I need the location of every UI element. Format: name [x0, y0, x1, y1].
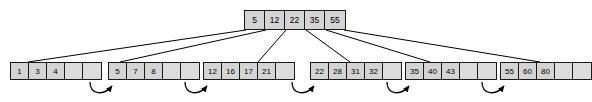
sibling-pointer-3-4 [292, 82, 314, 93]
child-pointer-6 [344, 30, 540, 62]
leaf-empty-cell[interactable] [478, 63, 496, 79]
leaf-key-cell[interactable]: 40 [424, 63, 442, 79]
leaf-key-cell[interactable]: 7 [127, 63, 145, 79]
leaf-key-cell[interactable]: 80 [537, 63, 555, 79]
sibling-pointer-2-3 [185, 82, 207, 93]
sibling-pointer-4-5 [387, 82, 409, 93]
leaf-key-cell[interactable]: 35 [406, 63, 424, 79]
leaf-key-cell[interactable]: 21 [258, 63, 276, 79]
root-key-cell[interactable]: 55 [325, 11, 345, 29]
leaf-empty-cell[interactable] [573, 63, 591, 79]
leaf-empty-cell[interactable] [555, 63, 573, 79]
leaf-key-cell[interactable]: 22 [311, 63, 329, 79]
leaf-empty-cell[interactable] [83, 63, 101, 79]
leaf-key-cell[interactable]: 3 [29, 63, 47, 79]
leaf-key-cell[interactable]: 4 [47, 63, 65, 79]
child-pointer-4 [306, 30, 350, 62]
root-key-cell[interactable]: 5 [245, 11, 265, 29]
leaf-node-6[interactable]: 55 60 80 [500, 62, 592, 80]
leaf-node-5[interactable]: 35 40 43 [405, 62, 497, 80]
leaf-node-3[interactable]: 12 16 17 21 [203, 62, 295, 80]
leaf-key-cell[interactable]: 5 [109, 63, 127, 79]
leaf-node-1[interactable]: 1 3 4 [10, 62, 102, 80]
leaf-key-cell[interactable]: 1 [11, 63, 29, 79]
leaf-key-cell[interactable]: 16 [222, 63, 240, 79]
leaf-key-cell[interactable]: 60 [519, 63, 537, 79]
leaf-key-cell[interactable]: 31 [347, 63, 365, 79]
root-key-cell[interactable]: 22 [285, 11, 305, 29]
root-key-cell[interactable]: 12 [265, 11, 285, 29]
leaf-key-cell[interactable]: 55 [501, 63, 519, 79]
leaf-key-cell[interactable]: 8 [145, 63, 163, 79]
leaf-empty-cell[interactable] [65, 63, 83, 79]
child-pointer-1 [28, 30, 246, 62]
leaf-key-cell[interactable]: 43 [442, 63, 460, 79]
leaf-node-2[interactable]: 5 7 8 [108, 62, 200, 80]
child-pointer-3 [258, 30, 286, 62]
leaf-empty-cell[interactable] [181, 63, 199, 79]
leaf-empty-cell[interactable] [163, 63, 181, 79]
leaf-empty-cell[interactable] [276, 63, 294, 79]
leaf-key-cell[interactable]: 12 [204, 63, 222, 79]
sibling-pointer-1-2 [90, 82, 112, 93]
leaf-node-4[interactable]: 22 28 31 32 [310, 62, 402, 80]
root-node[interactable]: 5 12 22 35 55 [244, 10, 346, 30]
sibling-pointer-5-6 [482, 82, 504, 93]
child-pointer-5 [326, 30, 430, 62]
leaf-empty-cell[interactable] [383, 63, 401, 79]
b-plus-tree-diagram: 5 12 22 35 55 1 3 4 5 7 8 12 16 17 21 22… [0, 0, 592, 102]
root-key-cell[interactable]: 35 [305, 11, 325, 29]
leaf-key-cell[interactable]: 17 [240, 63, 258, 79]
leaf-key-cell[interactable]: 32 [365, 63, 383, 79]
leaf-key-cell[interactable]: 28 [329, 63, 347, 79]
child-pointer-2 [120, 30, 266, 62]
leaf-empty-cell[interactable] [460, 63, 478, 79]
